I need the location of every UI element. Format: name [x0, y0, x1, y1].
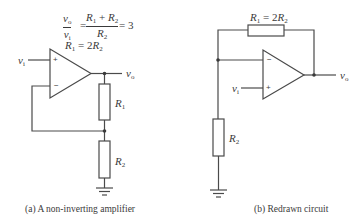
output-label-b: vo: [340, 70, 348, 83]
noninverting-sign-a: +: [53, 56, 58, 64]
resistor-r2-a: [99, 141, 110, 178]
resistor-r1-b: [248, 25, 284, 36]
inverting-sign-a: −: [54, 82, 59, 90]
gain-fraction-rhs: R1 + R2 R2: [86, 12, 118, 41]
caption-b: (b) Redrawn circuit: [254, 205, 328, 215]
gain-value: = 3: [119, 20, 133, 31]
resistor-r1-a: [99, 84, 110, 120]
input-label-a: vi: [18, 55, 25, 68]
junction-dot-output-b: [312, 73, 316, 77]
input-label-b: vi: [232, 83, 239, 96]
gain-fraction-lhs: vo vi: [63, 13, 71, 42]
ground-icon-b: [210, 190, 227, 197]
junction-dot-inverting-b: [216, 58, 220, 62]
junction-dot-node-a: [103, 129, 107, 133]
noninverting-sign-b: +: [266, 84, 271, 92]
circuit-drawing: [0, 0, 361, 222]
resistor-ratio-condition: R1 = 2R2: [65, 40, 103, 53]
output-label-a: vo: [126, 68, 134, 81]
feedback-wire-a: [32, 86, 105, 131]
resistor-r2-b: [213, 119, 224, 156]
junction-dot-output-a: [103, 72, 107, 76]
r1-label-a: R1: [115, 98, 125, 111]
ground-icon-a: [96, 188, 113, 195]
r2-label-a: R2: [115, 156, 125, 169]
r2-label-b: R2: [229, 133, 239, 146]
circuit-b: [210, 25, 336, 197]
circuit-a: [28, 49, 122, 195]
caption-a: (a) A non-inverting amplifier: [25, 205, 135, 215]
inverting-sign-b: −: [267, 56, 272, 64]
r1-label-b: R1 = 2R2: [250, 12, 288, 25]
